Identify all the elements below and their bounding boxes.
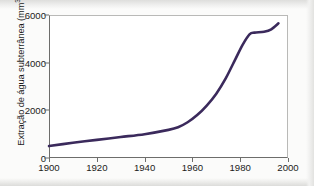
chart-figure: Extração de água subterrânea (mm3/ano) 0… [0, 0, 314, 186]
data-line-chart [0, 0, 314, 186]
series-line-groundwater-extraction [49, 23, 278, 146]
